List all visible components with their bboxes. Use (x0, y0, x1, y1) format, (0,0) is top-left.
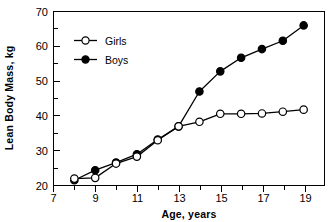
x-tick-labels: 7 9 11 13 15 17 19 (50, 192, 311, 204)
data-point (196, 118, 203, 125)
y-tick-labels: 70 60 50 40 30 20 (36, 6, 48, 192)
legend-label-boys: Boys (105, 54, 128, 66)
data-point (133, 153, 140, 160)
x-tick-label: 11 (132, 192, 143, 204)
data-point (258, 45, 265, 52)
x-tick-label: 15 (215, 192, 227, 204)
y-tick-label: 30 (36, 145, 48, 157)
chart-canvas: 70 60 50 40 30 20 7 9 11 (0, 0, 333, 222)
data-point (237, 110, 244, 117)
x-tick-label: 17 (257, 192, 269, 204)
x-tick-label: 19 (299, 192, 311, 204)
data-point (217, 68, 224, 75)
data-point (300, 106, 307, 113)
data-point (279, 37, 286, 44)
chart-legend: Girls Boys (74, 35, 128, 66)
y-tick-label: 40 (36, 110, 48, 122)
y-axis-title: Lean Body Mass, kg (3, 46, 15, 151)
legend-entry-girls: Girls (74, 35, 127, 47)
data-point (217, 110, 224, 117)
y-tick-label: 60 (36, 40, 48, 52)
y-tick-label: 50 (36, 75, 48, 87)
y-axis-ticks (54, 12, 60, 186)
x-axis-title: Age, years (161, 208, 216, 220)
data-point (112, 160, 119, 167)
open-circle-icon (82, 37, 89, 44)
legend-entry-boys: Boys (74, 54, 128, 66)
lean-body-mass-chart: 70 60 50 40 30 20 7 9 11 (0, 0, 333, 222)
data-point (258, 110, 265, 117)
data-point (175, 123, 182, 130)
series-line-girls (74, 110, 303, 179)
data-point (279, 108, 286, 115)
data-point (237, 54, 244, 61)
data-point (196, 88, 203, 95)
data-point (154, 137, 161, 144)
data-point (71, 175, 78, 182)
x-tick-label: 9 (92, 192, 98, 204)
series-line-boys (74, 25, 303, 180)
y-tick-label: 70 (36, 6, 48, 18)
x-tick-label: 13 (173, 192, 185, 204)
y-tick-label: 20 (36, 180, 48, 192)
legend-label-girls: Girls (105, 35, 127, 47)
x-axis-ticks (54, 186, 306, 192)
data-point (300, 22, 307, 29)
x-tick-label: 7 (50, 192, 56, 204)
data-point (91, 166, 98, 173)
filled-circle-icon (82, 56, 89, 63)
data-point (91, 174, 98, 181)
